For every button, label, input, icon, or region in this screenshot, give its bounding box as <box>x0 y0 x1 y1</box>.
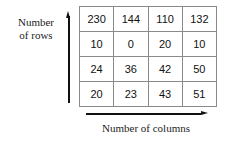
table-cell: 144 <box>114 7 148 32</box>
table-cell: 10 <box>80 32 114 57</box>
table-row: 10 0 20 10 <box>80 32 217 57</box>
arrow-up-icon <box>66 11 71 103</box>
table-cell: 0 <box>114 32 148 57</box>
table-cell: 10 <box>182 32 216 57</box>
table-cell: 24 <box>80 57 114 82</box>
arrow-up-shaft <box>68 16 70 103</box>
table-cell: 23 <box>114 82 148 107</box>
y-axis-label: Number of rows <box>8 16 64 41</box>
table-cell: 43 <box>148 82 182 107</box>
matrix-table: 230 144 110 132 10 0 20 10 24 36 42 50 2… <box>79 6 217 107</box>
table-row: 24 36 42 50 <box>80 57 217 82</box>
y-axis-label-line-2: of rows <box>8 29 64 42</box>
table-row: 230 144 110 132 <box>80 7 217 32</box>
arrow-right-shaft <box>86 113 201 115</box>
arrow-right-icon <box>86 111 208 117</box>
table-cell: 50 <box>182 57 216 82</box>
y-axis-label-line-1: Number <box>8 16 64 29</box>
table-cell: 110 <box>148 7 182 32</box>
table-cell: 36 <box>114 57 148 82</box>
table-cell: 42 <box>148 57 182 82</box>
arrow-right-head <box>201 111 208 115</box>
table-cell: 132 <box>182 7 216 32</box>
x-axis-label: Number of columns <box>79 122 213 135</box>
table-row: 20 23 43 51 <box>80 82 217 107</box>
table-cell: 230 <box>80 7 114 32</box>
table-cell: 20 <box>80 82 114 107</box>
table-cell: 51 <box>182 82 216 107</box>
table-cell: 20 <box>148 32 182 57</box>
